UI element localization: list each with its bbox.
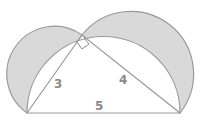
label-hypotenuse-5: 5	[95, 99, 103, 113]
lune-diagram: 3 4 5	[0, 0, 204, 122]
label-leg-3: 3	[54, 77, 62, 91]
lune-left	[7, 26, 82, 113]
label-leg-4: 4	[119, 73, 127, 87]
lune-right	[82, 11, 194, 113]
